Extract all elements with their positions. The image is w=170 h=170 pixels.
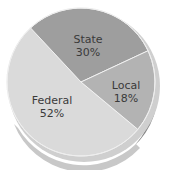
label-federal-pct: 52% <box>32 107 73 120</box>
label-state-pct: 30% <box>73 46 102 59</box>
label-state-name: State <box>73 33 102 46</box>
label-federal-name: Federal <box>32 94 73 107</box>
label-federal: Federal 52% <box>32 94 73 120</box>
label-local-pct: 18% <box>112 92 141 105</box>
label-local-name: Local <box>112 79 141 92</box>
pie-chart-svg <box>0 0 170 170</box>
label-local: Local 18% <box>112 79 141 105</box>
label-state: State 30% <box>73 33 102 59</box>
